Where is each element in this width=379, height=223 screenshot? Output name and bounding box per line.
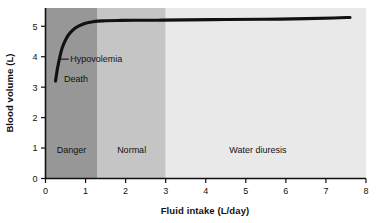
band-label-water-diuresis: Water diuresis [229,145,287,155]
x-tick-label: 7 [323,186,328,196]
x-tick-label: 3 [163,186,168,196]
x-tick-label: 1 [83,186,88,196]
x-tick-label: 6 [283,186,288,196]
y-axis-title: Blood volume (L) [4,53,15,132]
y-tick-label: 1 [32,143,37,153]
band-label-normal: Normal [117,145,146,155]
y-tick-label: 2 [32,113,37,123]
y-tick-label: 4 [32,52,37,62]
x-axis-title: Fluid intake (L/day) [161,205,250,216]
x-tick-label: 0 [43,186,48,196]
y-tick-label: 3 [32,83,37,93]
band-rects [46,8,367,179]
band-label-danger: Danger [57,145,87,155]
x-tick-label: 8 [363,186,368,196]
x-tick-label: 2 [123,186,128,196]
blood-volume-chart-figure: DangerNormalWater diuresis 012345678 012… [0,0,379,223]
x-tick-label: 4 [203,186,208,196]
x-tick-labels: 012345678 [43,186,369,196]
chart-canvas: DangerNormalWater diuresis 012345678 012… [0,0,379,223]
y-tick-label: 0 [32,174,37,184]
annotation-label-death: Death [64,74,88,84]
annotation-label-hypovolemia: Hypovolemia [70,54,122,64]
x-tick-label: 5 [243,186,248,196]
y-tick-labels: 012345 [32,22,37,184]
y-tick-label: 5 [32,22,37,32]
